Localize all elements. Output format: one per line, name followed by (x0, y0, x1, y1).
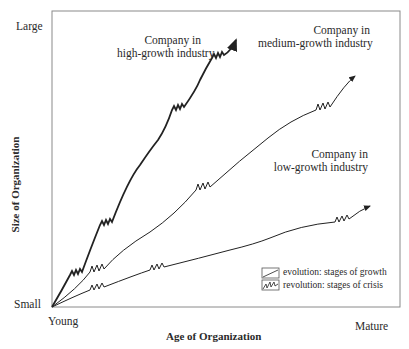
low-growth-label-line1: Company in (272, 148, 368, 161)
medium-growth-label: Company in medium-growth industry (258, 24, 370, 50)
y-tick-large: Large (16, 20, 43, 33)
y-tick-small: Small (14, 298, 41, 311)
growth-stages-diagram: Large Small Size of Organization Young M… (0, 0, 409, 349)
x-axis-label: Age of Organization (166, 330, 261, 343)
medium-growth-label-line2: medium-growth industry (258, 37, 370, 50)
x-tick-mature: Mature (355, 320, 388, 333)
low-growth-label: Company in low-growth industry (272, 148, 368, 174)
x-tick-young: Young (48, 315, 78, 328)
low-growth-label-line2: low-growth industry (272, 161, 368, 174)
high-growth-label-line1: Company in (117, 34, 201, 47)
high-growth-label-line2: high-growth industry (117, 47, 201, 60)
medium-growth-label-line1: Company in (258, 24, 370, 37)
legend-evolution-label: evolution: stages of growth (283, 266, 387, 279)
legend-revolution-label: revolution: stages of crisis (283, 279, 383, 292)
high-growth-curve (52, 40, 236, 307)
high-growth-label: Company in high-growth industry (117, 34, 201, 60)
legend (262, 268, 279, 290)
y-axis-label: Size of Organization (9, 130, 22, 240)
